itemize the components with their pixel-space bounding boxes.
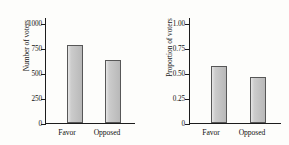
y-axis-tick: [185, 74, 190, 75]
bar-favor: [211, 66, 227, 123]
y-axis-tick: [185, 24, 190, 25]
x-axis-line: [189, 123, 281, 124]
y-axis-tick: [41, 124, 46, 125]
x-category-label-opposed: Opposed: [231, 128, 273, 137]
y-axis-line: [45, 18, 46, 124]
y-axis-tick: [41, 49, 46, 50]
y-tick-label: 0.50: [153, 70, 185, 78]
y-tick-label: 1.00: [153, 20, 185, 28]
plot-area: [45, 18, 135, 124]
x-category-label-favor: Favor: [195, 128, 227, 137]
y-axis-tick: [185, 49, 190, 50]
chart-panel-proportion-of-voters: Proportion of voters 1.00 0.75 0.50 0.25…: [145, 0, 289, 145]
bar-opposed: [105, 60, 121, 123]
x-axis-line: [45, 123, 135, 124]
y-tick-label: 1000: [12, 20, 42, 28]
y-tick-label: 250: [12, 95, 42, 103]
x-category-label-opposed: Opposed: [86, 128, 128, 137]
x-category-label-favor: Favor: [51, 128, 83, 137]
y-tick-label: 0.25: [153, 95, 185, 103]
y-axis-tick: [41, 99, 46, 100]
y-axis-line: [189, 18, 190, 124]
bar-favor: [67, 45, 83, 123]
y-tick-label: 750: [12, 45, 42, 53]
y-tick-label: 0: [12, 120, 42, 128]
y-tick-label: 500: [12, 70, 42, 78]
bar-opposed: [250, 77, 266, 123]
plot-area: [189, 18, 281, 124]
figure-container: Number of voters 1000 750 500 250 0 Favo…: [0, 0, 289, 145]
y-axis-tick: [41, 24, 46, 25]
chart-panel-number-of-voters: Number of voters 1000 750 500 250 0 Favo…: [0, 0, 144, 145]
y-axis-tick: [41, 74, 46, 75]
y-axis-tick: [185, 99, 190, 100]
y-tick-label: 0.75: [153, 45, 185, 53]
y-tick-label: 0: [153, 120, 185, 128]
y-axis-tick: [185, 124, 190, 125]
